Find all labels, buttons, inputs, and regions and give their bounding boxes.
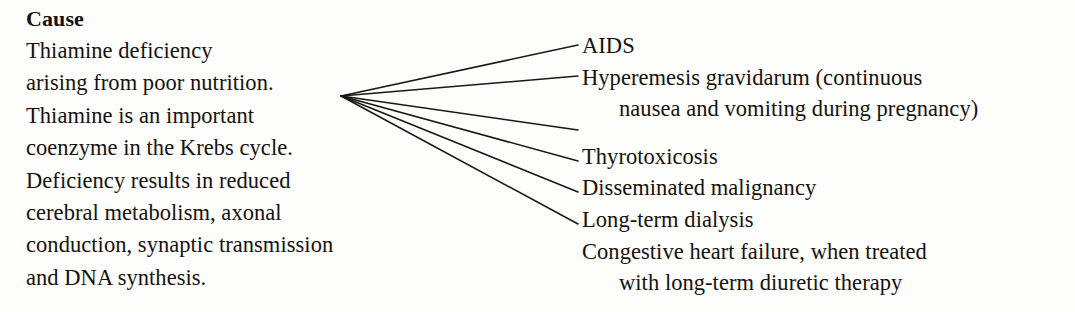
cause-list-item: Hyperemesis gravidarum (continuousnausea… bbox=[582, 62, 1052, 125]
cause-list-item: AIDS bbox=[582, 30, 1052, 62]
cause-list-item: Thyrotoxicosis bbox=[582, 141, 1052, 173]
connector-line bbox=[341, 96, 578, 130]
connector-lines-group bbox=[341, 45, 578, 224]
cause-list-item-continuation: with long-term diuretic therapy bbox=[582, 267, 1052, 299]
connector-line bbox=[341, 76, 578, 96]
cause-list: AIDSHyperemesis gravidarum (continuousna… bbox=[582, 30, 1052, 299]
connector-line bbox=[341, 96, 578, 224]
cause-list-item-continuation: nausea and vomiting during pregnancy) bbox=[582, 93, 1052, 125]
cause-list-item-label: Long-term dialysis bbox=[582, 207, 754, 232]
cause-list-item-label: Congestive heart failure, when treated bbox=[582, 239, 927, 264]
cause-list-item: Long-term dialysis bbox=[582, 204, 1052, 236]
diagram-canvas: Cause Thiamine deficiency arising from p… bbox=[0, 0, 1075, 312]
cause-body-text: Thiamine deficiency arising from poor nu… bbox=[26, 35, 356, 294]
cause-list-item: Congestive heart failure, when treatedwi… bbox=[582, 236, 1052, 299]
cause-heading: Cause bbox=[26, 4, 356, 34]
cause-list-item-label: Thyrotoxicosis bbox=[582, 144, 718, 169]
connector-line bbox=[341, 45, 578, 96]
cause-list-item-label: Disseminated malignancy bbox=[582, 175, 816, 200]
connector-line bbox=[341, 96, 578, 192]
cause-list-item-label: Hyperemesis gravidarum (continuous bbox=[582, 65, 922, 90]
cause-list-item: Disseminated malignancy bbox=[582, 172, 1052, 204]
cause-description-block: Cause Thiamine deficiency arising from p… bbox=[26, 4, 356, 294]
connector-line bbox=[341, 96, 578, 161]
cause-list-item-label: AIDS bbox=[582, 33, 635, 58]
